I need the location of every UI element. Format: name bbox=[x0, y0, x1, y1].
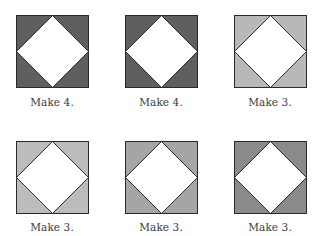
square-in-square-block-icon bbox=[234, 15, 307, 88]
square-in-square-block-icon bbox=[234, 141, 307, 214]
quilt-block-5 bbox=[125, 141, 198, 214]
quilt-block-3 bbox=[234, 15, 307, 88]
block-caption: Make 4. bbox=[111, 96, 211, 108]
block-caption: Make 3. bbox=[220, 221, 316, 233]
block-caption: Make 3. bbox=[220, 96, 316, 108]
block-caption: Make 3. bbox=[111, 221, 211, 233]
block-caption: Make 3. bbox=[2, 221, 102, 233]
square-in-square-block-icon bbox=[125, 141, 198, 214]
square-in-square-block-icon bbox=[16, 15, 89, 88]
square-in-square-block-icon bbox=[125, 15, 198, 88]
block-caption: Make 4. bbox=[2, 96, 102, 108]
quilt-block-2 bbox=[125, 15, 198, 88]
quilt-block-6 bbox=[234, 141, 307, 214]
quilt-block-1 bbox=[16, 15, 89, 88]
square-in-square-block-icon bbox=[16, 141, 89, 214]
quilt-block-4 bbox=[16, 141, 89, 214]
